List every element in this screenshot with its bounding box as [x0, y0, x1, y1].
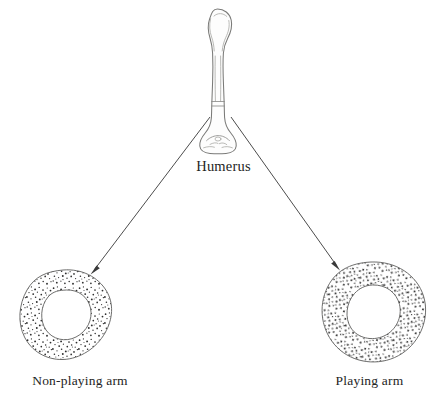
- humerus-bone-illustration: [200, 9, 237, 154]
- arrow-to-playing-arm: [231, 117, 340, 271]
- figure-root: Humerus Non-playing arm Playing arm: [0, 0, 447, 411]
- label-playing-arm: Playing arm: [292, 373, 447, 389]
- figure-illustration: [0, 0, 447, 411]
- arrow-to-non-playing-arm: [91, 117, 211, 275]
- label-non-playing-arm: Non-playing arm: [0, 373, 160, 389]
- cross-section-non-playing-arm: [20, 270, 112, 360]
- label-humerus: Humerus: [0, 158, 447, 175]
- cross-section-playing-arm: [322, 262, 426, 362]
